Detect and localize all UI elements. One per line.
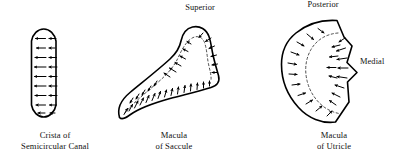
saccule-panel: [119, 27, 219, 119]
caption-saccule-line2: of Saccule: [128, 141, 220, 152]
crista-panel: [32, 29, 58, 117]
caption-saccule: Macula of Saccule: [128, 130, 220, 151]
caption-saccule-line1: Macula: [128, 130, 220, 141]
crista-outline: [32, 29, 57, 117]
caption-utricle-line1: Macula: [288, 130, 380, 141]
utricle-panel: [282, 20, 358, 122]
utricle-outline: [282, 20, 358, 122]
caption-utricle: Macula of Utricle: [288, 130, 380, 151]
label-medial: Medial: [360, 57, 400, 68]
caption-utricle-line2: of Utricle: [288, 141, 380, 152]
caption-crista-line2: Semicircular Canal: [0, 141, 110, 152]
label-posterior: Posterior: [288, 0, 358, 11]
caption-crista: Crista of Semicircular Canal: [0, 130, 110, 151]
anatomy-figure: Superior Posterior Medial Crista of Semi…: [0, 0, 402, 164]
caption-crista-line1: Crista of: [0, 130, 110, 141]
label-superior: Superior: [170, 3, 230, 14]
